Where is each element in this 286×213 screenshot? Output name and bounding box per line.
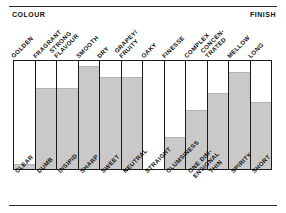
bottom-rule (9, 205, 277, 206)
tick-label-line: OAKY (139, 41, 157, 59)
top-tick-label: DRY (97, 45, 112, 60)
top-rule (9, 6, 277, 7)
bar-column[interactable] (14, 61, 36, 169)
tick-label-line: LONG (247, 41, 265, 59)
bottom-axis-title: FINISH (250, 11, 276, 18)
tick-label-line: GOLDEN (9, 35, 34, 60)
top-tick-label: OAKY (140, 42, 158, 60)
top-tick-label: GOLDEN (10, 35, 35, 60)
top-axis-title: COLOUR (12, 11, 45, 18)
top-tick-label: FINESSE (161, 35, 186, 60)
bar-column[interactable] (79, 61, 101, 169)
chart-sheet: COLOUR FINISH GOLDENFRAGRANTSTRONGFLAVOU… (0, 0, 286, 213)
tick-label-line: DRY (96, 45, 111, 60)
top-tick-label: LONG (248, 42, 266, 60)
tick-label-line: FINESSE (161, 34, 186, 59)
bar-column[interactable] (36, 61, 58, 169)
top-tick-label: GRAPEY/FRUITY (113, 29, 144, 60)
bar-column[interactable] (100, 61, 122, 169)
bar-column[interactable] (251, 61, 272, 169)
